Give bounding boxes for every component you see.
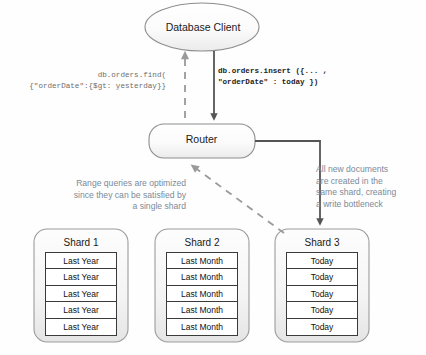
document-row: Last Year (46, 302, 116, 318)
document-row: Last Month (167, 302, 237, 318)
document-row: Last Month (167, 286, 237, 302)
find-query-annotation: db.orders.find( {"orderDate":{$gt: yeste… (6, 70, 166, 92)
document-row: Last Month (167, 253, 237, 269)
router-label: Router (148, 133, 255, 145)
document-row: Today (287, 302, 357, 318)
edge-shard3-to-router-read (194, 167, 284, 233)
shard-1-document-stack: Last YearLast YearLast YearLast YearLast… (45, 252, 117, 336)
document-row: Today (287, 269, 357, 285)
range-query-note: Range queries are optimized since they c… (26, 178, 186, 213)
document-row: Last Year (46, 286, 116, 302)
document-row: Last Month (167, 319, 237, 335)
write-bottleneck-note: All new documents are created in the sam… (316, 164, 424, 210)
shard-2-document-stack: Last MonthLast MonthLast MonthLast Month… (166, 252, 238, 336)
shard-3-document-stack: TodayTodayTodayTodayToday (286, 252, 358, 336)
document-row: Today (287, 319, 357, 335)
document-row: Last Year (46, 269, 116, 285)
document-row: Last Year (46, 319, 116, 335)
document-row: Today (287, 286, 357, 302)
edge-router-to-shard3-write (255, 141, 320, 222)
document-row: Today (287, 253, 357, 269)
shard-title-1: Shard 1 (34, 237, 128, 248)
insert-command-annotation: db.orders.insert ({... , "orderDate" : t… (218, 66, 327, 88)
shard-title-2: Shard 2 (155, 237, 249, 248)
document-row: Last Year (46, 253, 116, 269)
document-row: Last Month (167, 269, 237, 285)
shard-title-3: Shard 3 (275, 237, 369, 248)
database-client-label: Database Client (148, 21, 258, 33)
diagram-canvas: Database Client Router db.orders.find( {… (0, 0, 426, 355)
